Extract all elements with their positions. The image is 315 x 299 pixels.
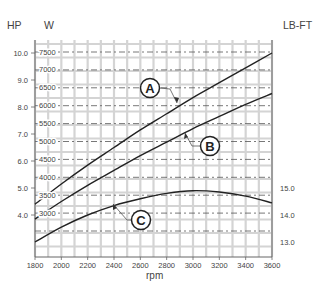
hp-axis-title: HP [7,19,22,31]
w-tick-label: 7500 [39,48,56,57]
lbft-tick-label: 15.0 [280,184,295,193]
hp-tick-label: 10.0 [13,49,28,58]
hp-tick-label: 8.0 [18,103,28,112]
w-tick-label: 4000 [39,173,56,182]
lbft-axis-title: LB-FT [283,19,313,31]
x-tick-label: 3000 [185,261,202,270]
x-tick-label: 1800 [27,261,44,270]
w-tick-label: 3000 [39,209,56,218]
x-tick-label: 3600 [264,261,281,270]
x-tick-label: 2400 [106,261,123,270]
callout-a: A [141,79,180,104]
performance-chart: 1800200022002400260028003000320034003600… [0,0,315,299]
callout-b-label: B [205,139,214,154]
x-tick-label: 2600 [132,261,149,270]
w-axis-title: W [44,19,54,31]
w-tick-label: 7000 [39,65,56,74]
hp-tick-label: 4.0 [18,211,28,220]
w-tick-label: 5000 [39,137,56,146]
w-tick-label: 4500 [39,155,56,164]
callout-a-label: A [145,81,155,96]
hp-tick-label: 7.0 [18,130,28,139]
lbft-tick-label: 14.0 [280,211,295,220]
w-tick-label: 5500 [39,119,56,128]
x-axis-title: rpm [146,270,163,281]
w-tick-label: 6500 [39,83,56,92]
hp-tick-label: 6.0 [18,157,28,166]
x-tick-label: 2000 [53,261,70,270]
x-tick-label: 3400 [237,261,254,270]
hp-tick-label: 5.0 [18,184,28,193]
x-tick-label: 3200 [211,261,228,270]
hp-tick-label: 9.0 [18,76,28,85]
w-tick-label: 3500 [39,191,56,200]
w-tick-label: 6000 [39,101,56,110]
x-tick-label: 2200 [79,261,96,270]
x-tick-label: 2800 [158,261,175,270]
lbft-tick-label: 13.0 [280,238,295,247]
callout-c-label: C [136,213,146,228]
callout-c: C [113,204,151,230]
